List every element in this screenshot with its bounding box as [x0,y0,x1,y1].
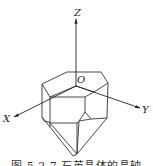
strip-inner [49,122,77,154]
quartz-crystal-axes-diagram: Z X Y O [0,0,153,166]
coordinate-axes [14,19,140,117]
x-axis [14,86,76,117]
small-triangle-facet [79,112,91,121]
crystal-outline [42,72,108,156]
edge-right-to-apex [77,118,107,154]
origin-label: O [77,74,85,85]
edge-right-vertical [107,83,108,118]
edge-d-f [42,84,50,97]
z-axis-label: Z [73,7,82,18]
x-axis-label: X [2,113,11,124]
edge-k-c [94,83,108,92]
edge-triangle-to-right [91,118,107,119]
edge-g-k [85,92,94,97]
top-face-edges [42,72,108,84]
edge-apex-base [73,154,77,156]
y-axis-label: Y [142,104,150,115]
figure-caption: 图 5.2.7 石英晶体的晶轴 [0,157,153,166]
